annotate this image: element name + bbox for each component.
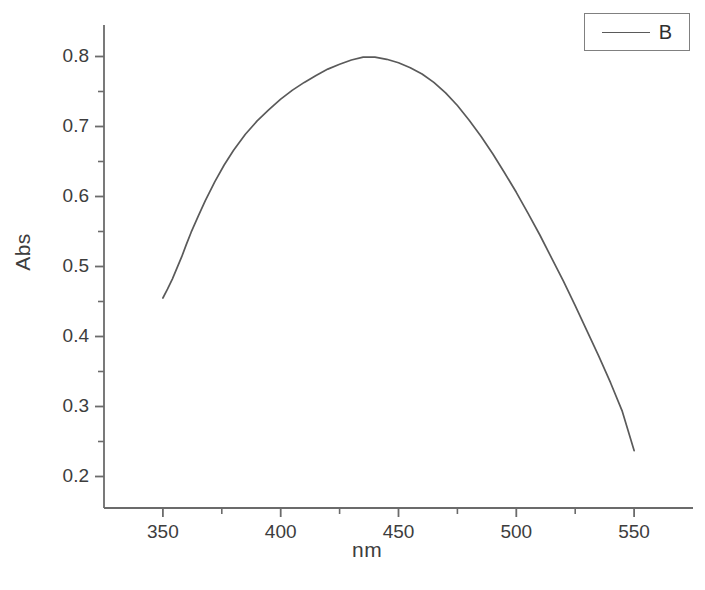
x-tick-label: 400: [251, 521, 311, 543]
axis-ticks: [95, 57, 634, 518]
y-tick-label: 0.8: [39, 45, 89, 67]
y-tick-label: 0.5: [39, 255, 89, 277]
x-axis-title: nm: [352, 538, 382, 562]
chart-figure: 0.20.30.40.50.60.70.8 350400450500550 Ab…: [0, 0, 705, 590]
legend: B: [584, 13, 690, 51]
x-tick-label: 350: [133, 521, 193, 543]
y-tick-label: 0.2: [39, 465, 89, 487]
legend-line-swatch: [602, 32, 650, 33]
data-series-group: [163, 57, 634, 450]
legend-entry-b: B: [585, 14, 689, 50]
chart-plot-area: [0, 0, 705, 590]
legend-label: B: [659, 22, 672, 42]
x-tick-label: 550: [604, 521, 664, 543]
y-tick-label: 0.6: [39, 185, 89, 207]
axis-lines: [104, 25, 693, 508]
y-tick-label: 0.7: [39, 115, 89, 137]
x-tick-label: 500: [486, 521, 546, 543]
y-tick-label: 0.3: [39, 395, 89, 417]
y-axis-title: Abs: [11, 233, 35, 271]
y-tick-label: 0.4: [39, 325, 89, 347]
